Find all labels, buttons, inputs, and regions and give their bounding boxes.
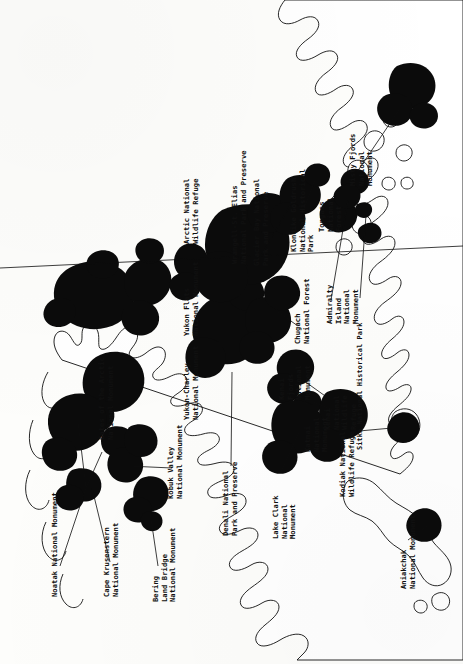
map-graphic <box>0 0 463 664</box>
label-kobuk-valley: Kobuk Valley National Monument <box>167 425 184 499</box>
label-aniakchak: Aniakchak National Monument <box>400 515 417 589</box>
label-denali: Denali National Park and Preserve <box>222 462 239 536</box>
label-kodiak-nwr: Kodiak National Wildlife Refuge <box>339 431 356 497</box>
label-klondike-goldrush: Klondike Goldrush National Historical Pa… <box>290 169 316 252</box>
label-wrangell-st-elias: Wrangell-St. Elias National Park and Pre… <box>231 150 248 264</box>
label-sitka: Sitka National Historical Park <box>356 323 364 450</box>
label-noatak: Noatak National Monument <box>51 492 60 597</box>
label-lake-clark: Lake Clark National Monument <box>272 495 298 539</box>
label-glacier-bay: Glacier Bay National Park and Preserve <box>253 179 270 266</box>
label-arctic-nwr: Arctic National Wildlife Refuge <box>183 178 200 244</box>
label-tongass: Tongass National Forest <box>318 197 344 232</box>
label-katmai: Katmai National Monument <box>304 417 330 452</box>
alaska-national-parks-map: Arctic National Wildlife Refuge Yukon Fl… <box>0 0 463 664</box>
label-bering-land-bridge: Bering Land Bridge National Monument <box>152 528 178 602</box>
label-admiralty-island: Admiralty Island National Monument <box>326 285 360 324</box>
label-yukon-charley: Yukon-Charley National Monument <box>183 346 200 420</box>
label-yukon-flats: Yukon Flats National Monument <box>183 262 200 336</box>
label-misty-fjords: Misty Fjords National Monument <box>349 134 375 186</box>
label-cape-krusenstern: Cape Krusenstern National Monument <box>103 523 120 597</box>
label-gates-of-the-arctic: Gates of the Arctic National Monument <box>98 357 115 440</box>
park-yukon-flats <box>124 258 171 306</box>
label-kenai-fjords: Kenai Fjords National Monument <box>278 365 312 400</box>
label-chugach: Chugach National Forest <box>294 278 311 344</box>
